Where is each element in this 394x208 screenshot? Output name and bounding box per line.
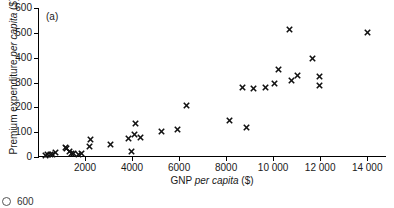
data-point-marker [262, 84, 269, 91]
x-tick [320, 156, 321, 161]
x-axis-line [38, 156, 386, 157]
data-point-marker [132, 120, 139, 127]
b-bullet-icon [2, 197, 11, 206]
y-axis-title-italic: per capita [8, 13, 19, 57]
y-tick [34, 107, 39, 108]
data-point-marker [286, 26, 293, 33]
data-point-marker [107, 141, 114, 148]
data-point-marker [364, 29, 371, 36]
data-point-marker [86, 143, 93, 150]
data-point-marker [174, 126, 181, 133]
data-point-marker [309, 55, 316, 62]
plot-area: 0100200300400500600 200040006000800010 0… [38, 8, 386, 157]
data-point-marker [52, 149, 59, 156]
y-tick [34, 157, 39, 158]
y-tick [34, 58, 39, 59]
x-tick [132, 156, 133, 161]
y-tick-label: 0 [26, 152, 32, 162]
data-point-marker [250, 85, 257, 92]
x-tick-label: 10 000 [258, 163, 289, 173]
y-tick [34, 83, 39, 84]
data-point-marker [275, 66, 282, 73]
y-axis-title: Premium expenditure per capita ($) [8, 5, 19, 155]
next-panel-ytick-label: 600 [17, 196, 34, 207]
data-point-marker [183, 102, 190, 109]
data-point-marker [294, 72, 301, 79]
data-point-marker [316, 73, 323, 80]
x-tick [179, 156, 180, 161]
x-tick-label: 4000 [121, 163, 143, 173]
x-tick-label: 14 000 [352, 163, 383, 173]
data-point-marker [243, 124, 250, 131]
data-point-marker [128, 148, 135, 155]
data-point-marker [137, 134, 144, 141]
y-tick [34, 132, 39, 133]
data-point-marker [271, 80, 278, 87]
x-tick [273, 156, 274, 161]
data-point-marker [158, 128, 165, 135]
x-axis-title-italic: per capita [195, 175, 239, 186]
x-axis-title: GNP per capita ($) [38, 175, 386, 186]
y-tick [34, 8, 39, 9]
scatter-plot-figure: 0100200300400500600 200040006000800010 0… [0, 0, 394, 208]
y-axis-title-tail: ($) [8, 0, 19, 13]
x-tick [226, 156, 227, 161]
data-point-marker [87, 136, 94, 143]
x-tick-label: 2000 [74, 163, 96, 173]
next-panel-sliver: 600 [0, 196, 394, 208]
x-axis-title-tail: ($) [239, 175, 254, 186]
data-point-marker [78, 150, 85, 157]
x-tick [367, 156, 368, 161]
x-tick-label: 8000 [215, 163, 237, 173]
y-tick [34, 33, 39, 34]
data-point-marker [226, 117, 233, 124]
data-point-marker [316, 82, 323, 89]
x-tick-label: 6000 [168, 163, 190, 173]
x-tick [85, 156, 86, 161]
panel-label: (a) [46, 11, 58, 22]
x-tick-label: 12 000 [305, 163, 336, 173]
x-axis-title-plain: GNP [170, 175, 194, 186]
y-axis-title-plain: Premium expenditure [8, 57, 19, 155]
data-point-marker [239, 84, 246, 91]
